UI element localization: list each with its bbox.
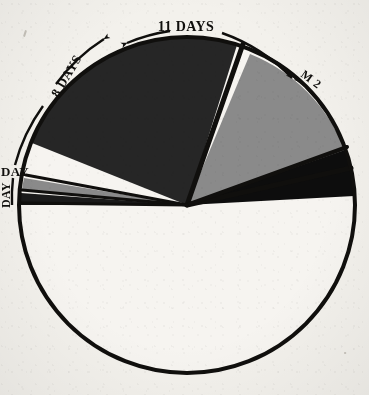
- label-day: DAY: [1, 164, 29, 179]
- sector-diagram: 11 DAYS 8 DAYS M 2 DAY DAY: [0, 0, 369, 395]
- label-day-clipped: DAY: [0, 182, 13, 208]
- label-11-days: 11 DAYS: [158, 19, 214, 34]
- scan-speck: [344, 352, 346, 354]
- figure-canvas: 11 DAYS 8 DAYS M 2 DAY DAY: [0, 0, 369, 395]
